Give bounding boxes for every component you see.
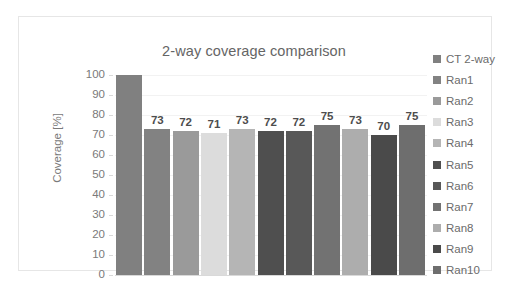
y-axis-tick [109, 155, 113, 156]
legend-swatch-icon [433, 203, 441, 211]
legend-item-ran1[interactable]: Ran1 [433, 69, 509, 90]
bar[interactable] [116, 75, 142, 275]
plot-area [115, 75, 427, 275]
bar[interactable] [342, 129, 368, 275]
legend-label: Ran8 [446, 222, 474, 234]
bar[interactable] [286, 131, 312, 275]
legend-swatch-icon [433, 118, 441, 126]
bar[interactable] [314, 125, 340, 275]
legend-swatch-icon [433, 224, 441, 232]
bar[interactable] [399, 125, 425, 275]
legend-label: Ran9 [446, 243, 474, 255]
legend-item-ran7[interactable]: Ran7 [433, 196, 509, 217]
legend-item-ran2[interactable]: Ran2 [433, 90, 509, 111]
legend-swatch-icon [433, 139, 441, 147]
y-axis-tick-label: 40 [71, 188, 105, 200]
y-axis-tick [109, 215, 113, 216]
legend-swatch-icon [433, 161, 441, 169]
legend-label: Ran1 [446, 74, 474, 86]
legend-item-ran5[interactable]: Ran5 [433, 154, 509, 175]
y-axis-tick [109, 275, 113, 276]
gridline [115, 95, 427, 96]
chart-container: 2-way coverage comparison Coverage [%] 7… [18, 16, 492, 271]
bar[interactable] [371, 135, 397, 275]
y-axis-tick [109, 115, 113, 116]
legend-swatch-icon [433, 245, 441, 253]
y-axis-tick-label: 70 [71, 128, 105, 140]
y-axis-tick-label: 80 [71, 108, 105, 120]
gridline [115, 75, 427, 76]
legend-label: Ran6 [446, 180, 474, 192]
bar-value-label: 75 [392, 110, 432, 122]
bar[interactable] [258, 131, 284, 275]
y-axis-tick-label: 50 [71, 168, 105, 180]
bar[interactable] [173, 131, 199, 275]
legend-item-ran6[interactable]: Ran6 [433, 175, 509, 196]
y-axis-tick [109, 255, 113, 256]
y-axis-tick-label: 20 [71, 228, 105, 240]
y-axis-tick [109, 95, 113, 96]
legend-label: Ran7 [446, 201, 474, 213]
legend-label: Ran2 [446, 95, 474, 107]
legend-item-ran4[interactable]: Ran4 [433, 133, 509, 154]
y-axis-tick-label: 0 [71, 268, 105, 280]
legend-swatch-icon [433, 97, 441, 105]
legend-label: Ran5 [446, 159, 474, 171]
y-axis-tick [109, 235, 113, 236]
legend-item-ran9[interactable]: Ran9 [433, 239, 509, 260]
legend-swatch-icon [433, 182, 441, 190]
y-axis-tick [109, 135, 113, 136]
bar[interactable] [229, 129, 255, 275]
legend-label: CT 2-way [446, 53, 495, 65]
y-axis-tick [109, 75, 113, 76]
legend-label: Ran10 [446, 264, 480, 276]
legend-item-ran10[interactable]: Ran10 [433, 260, 509, 281]
y-axis-tick-label: 100 [71, 68, 105, 80]
legend-swatch-icon [433, 76, 441, 84]
legend-swatch-icon [433, 55, 441, 63]
bar[interactable] [201, 133, 227, 275]
legend-swatch-icon [433, 266, 441, 274]
y-axis-title: Coverage [%] [51, 88, 63, 208]
bar[interactable] [144, 129, 170, 275]
y-axis-tick-label: 30 [71, 208, 105, 220]
y-axis-tick-label: 90 [71, 88, 105, 100]
legend-label: Ran3 [446, 116, 474, 128]
chart-legend: CT 2-wayRan1Ran2Ran3Ran4Ran5Ran6Ran7Ran8… [433, 48, 509, 281]
legend-label: Ran4 [446, 137, 474, 149]
legend-item-ct-2-way[interactable]: CT 2-way [433, 48, 509, 69]
y-axis-tick [109, 175, 113, 176]
chart-title: 2-way coverage comparison [79, 43, 429, 59]
y-axis-tick-label: 10 [71, 248, 105, 260]
y-axis-tick [109, 195, 113, 196]
y-axis-tick-label: 60 [71, 148, 105, 160]
x-axis-line [115, 275, 427, 276]
legend-item-ran3[interactable]: Ran3 [433, 112, 509, 133]
legend-item-ran8[interactable]: Ran8 [433, 218, 509, 239]
